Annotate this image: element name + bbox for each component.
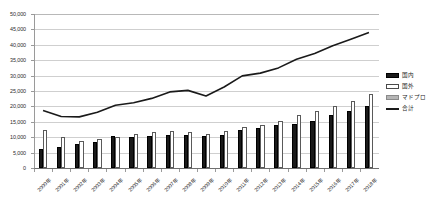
bar-group	[251, 14, 269, 168]
legend-item[interactable]: 国外	[386, 81, 436, 92]
bar-foreign	[61, 137, 65, 168]
bar-foreign	[43, 130, 47, 168]
x-axis-tick-label: 2007年	[162, 176, 179, 193]
bar-group	[215, 14, 233, 168]
bar-group	[306, 14, 324, 168]
y-axis-tick-label: 5,000	[13, 150, 26, 156]
x-axis-category: 2018年	[360, 170, 378, 208]
y-axis-tick-label: 0	[23, 165, 26, 171]
legend-item-label: 国外	[402, 84, 414, 90]
x-axis-tick-mark	[106, 169, 107, 172]
x-axis-tick-label: 2016年	[325, 176, 342, 193]
x-axis-tick-mark	[179, 169, 180, 172]
bar-group	[106, 14, 124, 168]
bar-foreign	[351, 101, 355, 168]
x-axis-tick-label: 2004年	[108, 176, 125, 193]
x-axis-tick-label: 2001年	[53, 176, 70, 193]
x-axis-tick-mark	[269, 169, 270, 172]
bar-group	[52, 14, 70, 168]
legend-item[interactable]: 合計	[386, 103, 436, 114]
x-axis-tick-label: 2014年	[289, 176, 306, 193]
x-axis-category: 2010年	[215, 170, 233, 208]
x-axis-tick-mark	[161, 169, 162, 172]
x-axis-tick-label: 2000年	[35, 176, 52, 193]
legend-swatch-icon	[386, 95, 399, 100]
bar-foreign	[224, 131, 228, 168]
bar-group	[161, 14, 179, 168]
x-axis-tick-mark	[52, 169, 53, 172]
x-axis-category: 2006年	[143, 170, 161, 208]
legend-item[interactable]: マドプロ	[386, 92, 436, 103]
x-axis-category: 2004年	[106, 170, 124, 208]
y-axis-tick-label: 40,000	[10, 42, 26, 48]
x-axis-tick-mark	[251, 169, 252, 172]
legend-item-label: マドプロ	[402, 95, 426, 101]
x-axis: 2000年2001年2002年2003年2004年2005年2006年2007年…	[34, 170, 378, 208]
bar-foreign	[242, 127, 246, 168]
y-axis-tick-label: 25,000	[10, 88, 26, 94]
legend-swatch-icon	[386, 106, 399, 111]
bar-group	[342, 14, 360, 168]
bar-group	[233, 14, 251, 168]
x-axis-tick-mark	[70, 169, 71, 172]
bar-group	[34, 14, 52, 168]
x-axis-tick-mark	[88, 169, 89, 172]
x-axis-category: 2015年	[306, 170, 324, 208]
x-axis-category: 2017年	[342, 170, 360, 208]
y-axis-tick-label: 45,000	[10, 26, 26, 32]
bar-group	[88, 14, 106, 168]
legend-item[interactable]: 国内	[386, 70, 436, 81]
bar-group	[143, 14, 161, 168]
bar-group	[70, 14, 88, 168]
x-axis-tick-label: 2010年	[216, 176, 233, 193]
x-axis-tick-label: 2002年	[71, 176, 88, 193]
legend-item-label: 国内	[402, 73, 414, 79]
y-axis-tick-label: 30,000	[10, 73, 26, 79]
bar-group	[269, 14, 287, 168]
x-axis-category: 2003年	[88, 170, 106, 208]
x-axis-tick-label: 2009年	[198, 176, 215, 193]
x-axis-tick-label: 2013年	[271, 176, 288, 193]
y-axis-tick-label: 10,000	[10, 134, 26, 140]
x-axis-tick-mark	[360, 169, 361, 172]
x-axis-category: 2008年	[179, 170, 197, 208]
x-axis-tick-label: 2003年	[90, 176, 107, 193]
legend-swatch-icon	[386, 84, 399, 89]
x-axis-tick-label: 2018年	[361, 176, 378, 193]
x-axis-tick-mark	[125, 169, 126, 172]
x-axis-tick-mark	[215, 169, 216, 172]
x-axis-tick-mark	[288, 169, 289, 172]
x-axis-tick-mark	[324, 169, 325, 172]
x-axis-tick-mark	[233, 169, 234, 172]
y-axis-tick-label: 35,000	[10, 57, 26, 63]
legend-swatch-icon	[386, 73, 399, 78]
bar-group	[360, 14, 378, 168]
x-axis-tick-mark	[342, 169, 343, 172]
bar-foreign	[297, 115, 301, 168]
bar-foreign	[260, 125, 264, 168]
bar-foreign	[315, 111, 319, 168]
bar-foreign	[115, 137, 119, 168]
x-axis-category: 2016年	[324, 170, 342, 208]
bar-foreign	[206, 134, 210, 168]
x-axis-category: 2013年	[269, 170, 287, 208]
x-axis-tick-mark	[306, 169, 307, 172]
bar-group	[324, 14, 342, 168]
x-axis-category: 2012年	[251, 170, 269, 208]
x-axis-category: 2001年	[52, 170, 70, 208]
x-axis-category: 2002年	[70, 170, 88, 208]
bar-foreign	[369, 94, 373, 168]
x-axis-tick-label: 2008年	[180, 176, 197, 193]
bar-group	[125, 14, 143, 168]
legend-item-label: 合計	[402, 106, 414, 112]
chart-container: 05,00010,00015,00020,00025,00030,00035,0…	[0, 0, 437, 208]
x-axis-tick-mark	[143, 169, 144, 172]
x-axis-category: 2014年	[288, 170, 306, 208]
x-axis-tick-mark	[34, 169, 35, 172]
x-axis-tick-label: 2012年	[253, 176, 270, 193]
x-axis-tick-label: 2017年	[343, 176, 360, 193]
x-axis-category: 2011年	[233, 170, 251, 208]
x-axis-category: 2005年	[125, 170, 143, 208]
x-axis-tick-mark	[197, 169, 198, 172]
x-axis-tick-label: 2015年	[307, 176, 324, 193]
